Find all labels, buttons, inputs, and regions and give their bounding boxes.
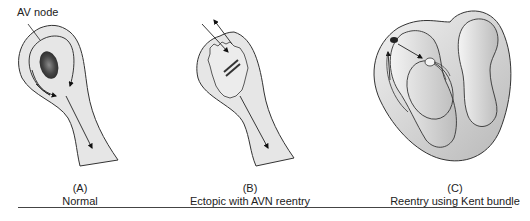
- kent-bundle-icon: [390, 37, 398, 43]
- panel-c-letter: (C): [380, 182, 530, 195]
- av-node-label: AV node: [17, 6, 58, 18]
- caption-c: (C) Reentry using Kent bundle: [380, 182, 530, 208]
- panel-b-letter: (B): [175, 182, 325, 195]
- ectopic-reentry-illustration: [170, 0, 350, 175]
- av-node-icon: [425, 58, 435, 66]
- caption-a: (A) Normal: [30, 182, 130, 208]
- caption-b: (B) Ectopic with AVN reentry: [175, 182, 325, 208]
- panel-a: AV node: [0, 0, 175, 175]
- bottom-divider: [18, 207, 512, 208]
- panel-c: [350, 0, 530, 175]
- normal-conduction-illustration: [0, 0, 175, 175]
- kent-bundle-reentry-illustration: [350, 0, 530, 175]
- panel-b: [170, 0, 350, 175]
- panel-a-letter: (A): [30, 182, 130, 195]
